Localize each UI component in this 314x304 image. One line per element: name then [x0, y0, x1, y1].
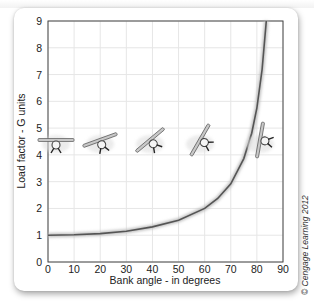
y-tick-label: 9 [36, 15, 42, 27]
airplane-front-view-icon [186, 124, 220, 162]
x-tick-label: 20 [94, 263, 106, 275]
x-axis-label: Bank angle - in degrees [110, 274, 221, 286]
load-factor-chart: 0102030405060708090 0123456789 Bank angl… [0, 0, 314, 304]
copyright-credit: © Cengage Learning 2012 [300, 195, 310, 295]
y-tick-label: 2 [36, 202, 42, 214]
y-tick-label: 7 [36, 69, 42, 81]
x-tick-label: 80 [251, 263, 263, 275]
y-tick-label: 0 [36, 256, 42, 268]
y-tick-label: 1 [36, 229, 42, 241]
airplane-front-view-icon [135, 127, 172, 161]
x-tick-label: 0 [45, 263, 51, 275]
x-tick-label: 10 [68, 263, 80, 275]
y-tick-label: 5 [36, 122, 42, 134]
y-tick-label: 6 [36, 95, 42, 107]
y-axis-label: Load factor - G units [15, 93, 27, 188]
airplane-front-view-icon [38, 135, 74, 153]
y-tick-label: 8 [36, 42, 42, 54]
y-tick-label: 3 [36, 176, 42, 188]
y-tick-label: 4 [36, 149, 42, 161]
x-tick-label: 90 [277, 263, 289, 275]
x-tick-label: 70 [225, 263, 237, 275]
